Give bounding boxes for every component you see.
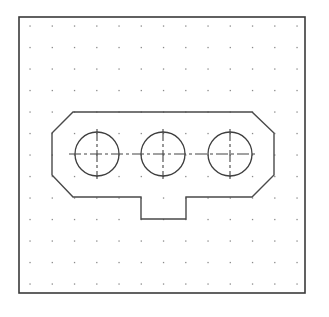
drawing-frame — [19, 17, 305, 293]
grid-dot — [29, 47, 30, 48]
grid-dot — [252, 262, 253, 263]
grid-dot — [274, 68, 275, 69]
grid-dot — [296, 133, 297, 134]
grid-dot — [96, 25, 97, 26]
grid-dot — [296, 219, 297, 220]
grid-dot — [163, 283, 164, 284]
grid-dot — [29, 262, 30, 263]
grid-dot — [252, 176, 253, 177]
grid-dot — [252, 90, 253, 91]
grid-dot — [118, 25, 119, 26]
drawing-canvas[interactable] — [0, 0, 329, 317]
grid-dot — [118, 262, 119, 263]
grid-dot — [296, 25, 297, 26]
grid-dot — [118, 68, 119, 69]
grid-dot — [29, 197, 30, 198]
grid-dot — [185, 240, 186, 241]
grid-dot — [207, 25, 208, 26]
grid-dot — [185, 25, 186, 26]
grid-dot — [52, 262, 53, 263]
grid-dot — [163, 90, 164, 91]
grid-dot — [74, 133, 75, 134]
grid-dot — [141, 176, 142, 177]
grid-dot — [29, 25, 30, 26]
grid-dot — [274, 90, 275, 91]
grid-dot — [29, 283, 30, 284]
grid-dot — [52, 111, 53, 112]
grid-dot — [118, 219, 119, 220]
grid-dot — [274, 197, 275, 198]
grid-dot — [252, 68, 253, 69]
grid-dot — [274, 111, 275, 112]
grid-dot — [29, 219, 30, 220]
grid-dot — [74, 176, 75, 177]
grid-dot — [118, 176, 119, 177]
grid-dot — [185, 283, 186, 284]
grid-dot — [96, 90, 97, 91]
grid-dot — [141, 25, 142, 26]
grid-dot — [118, 283, 119, 284]
grid-dot — [252, 240, 253, 241]
grid-dot — [296, 47, 297, 48]
grid-dot — [141, 133, 142, 134]
grid-dot — [118, 90, 119, 91]
grid-dot — [207, 283, 208, 284]
grid-dot — [96, 283, 97, 284]
grid-dot — [230, 47, 231, 48]
grid-dot — [29, 154, 30, 155]
grid-dot — [185, 133, 186, 134]
grid-dot — [74, 240, 75, 241]
grid-dot — [230, 90, 231, 91]
grid-dot — [141, 240, 142, 241]
grid-dot — [52, 90, 53, 91]
grid-dot — [207, 262, 208, 263]
grid-dot — [74, 262, 75, 263]
grid-dot — [141, 283, 142, 284]
grid-dot — [74, 283, 75, 284]
grid-dot — [163, 262, 164, 263]
grid-dot — [118, 47, 119, 48]
grid-dot — [274, 262, 275, 263]
grid-dot — [296, 197, 297, 198]
grid-dot — [52, 219, 53, 220]
grid-dot — [163, 47, 164, 48]
grid-dot — [96, 240, 97, 241]
grid-dot — [296, 154, 297, 155]
grid-dot — [252, 219, 253, 220]
grid-dot — [230, 219, 231, 220]
grid-dot — [296, 111, 297, 112]
grid-dot — [230, 240, 231, 241]
grid-dot — [29, 176, 30, 177]
grid-dot — [296, 176, 297, 177]
grid-dot — [29, 133, 30, 134]
grid-dot — [207, 176, 208, 177]
grid-dot — [96, 219, 97, 220]
grid-dot — [141, 47, 142, 48]
grid-dot — [252, 283, 253, 284]
grid-dot — [296, 262, 297, 263]
grid-dot — [52, 283, 53, 284]
grid-dot — [141, 90, 142, 91]
grid-dot — [185, 262, 186, 263]
grid-dot — [230, 262, 231, 263]
grid-dot — [296, 283, 297, 284]
grid-dot — [207, 219, 208, 220]
grid-dot — [163, 25, 164, 26]
grid-dot — [29, 240, 30, 241]
grid-dot — [141, 68, 142, 69]
grid-dot — [74, 68, 75, 69]
grid-dot — [29, 68, 30, 69]
grid-dot — [52, 197, 53, 198]
grid-dot — [96, 47, 97, 48]
grid-dot — [207, 133, 208, 134]
grid-dot — [74, 90, 75, 91]
grid-dot — [163, 240, 164, 241]
grid-dot — [185, 90, 186, 91]
grid-dot — [274, 219, 275, 220]
grid-dot — [163, 68, 164, 69]
grid-dot — [141, 262, 142, 263]
grid-dot — [52, 240, 53, 241]
grid-dot — [207, 47, 208, 48]
grid-dot — [252, 133, 253, 134]
grid-dot — [185, 176, 186, 177]
